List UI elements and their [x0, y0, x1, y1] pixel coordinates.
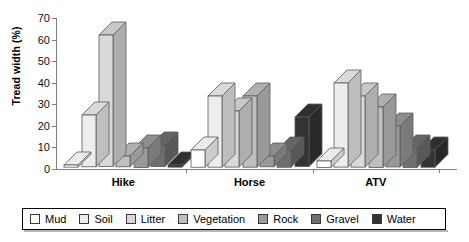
legend-label: Water: [387, 213, 416, 225]
category-label-horse: Horse: [181, 176, 319, 188]
legend-item-rock[interactable]: Rock: [258, 213, 298, 225]
y-tick-mark: [52, 147, 56, 148]
legend-label: Gravel: [326, 213, 358, 225]
y-tick-mark: [52, 83, 56, 84]
bar-horse-mud: [191, 152, 205, 169]
y-axis-line: [56, 18, 57, 170]
legend-swatch-icon: [79, 214, 89, 224]
category-separator-tick: [313, 169, 314, 173]
legend-label: Vegetation: [193, 213, 245, 225]
tread-width-bar-chart: Tread width (%) 706050403020100 HikeHors…: [0, 0, 469, 242]
legend-label: Litter: [141, 213, 165, 225]
legend-item-water[interactable]: Water: [372, 213, 416, 225]
y-tick-label: 60: [38, 34, 50, 46]
legend-item-soil[interactable]: Soil: [79, 213, 112, 225]
legend-swatch-icon: [126, 214, 136, 224]
plot-area: 706050403020100 HikeHorseATV: [56, 18, 456, 169]
category-label-atv: ATV: [307, 176, 445, 188]
legend-swatch-icon: [30, 214, 40, 224]
y-tick-label: 70: [38, 12, 50, 24]
y-tick-label: 20: [38, 120, 50, 132]
y-tick-mark: [52, 104, 56, 105]
y-tick-label: 40: [38, 77, 50, 89]
y-tick-mark: [52, 61, 56, 62]
bar-hike-mud: [64, 167, 78, 169]
legend-swatch-icon: [372, 214, 382, 224]
legend-shadow: [24, 230, 448, 232]
x-axis-line: [56, 169, 457, 170]
bar-3d-shape: [191, 137, 220, 169]
legend-item-gravel[interactable]: Gravel: [311, 213, 358, 225]
legend-swatch-icon: [258, 214, 268, 224]
y-tick-mark: [52, 169, 56, 170]
legend-swatch-icon: [178, 214, 188, 224]
legend-label: Rock: [273, 213, 298, 225]
chart-legend: MudSoilLitterVegetationRockGravelWater: [22, 208, 446, 230]
y-tick-label: 50: [38, 55, 50, 67]
y-axis-title: Tread width (%): [10, 6, 22, 126]
y-tick-label: 10: [38, 141, 50, 153]
legend-label: Soil: [94, 213, 112, 225]
y-tick-label: 30: [38, 98, 50, 110]
category-separator-tick: [186, 169, 187, 173]
legend-item-litter[interactable]: Litter: [126, 213, 165, 225]
y-tick-mark: [52, 126, 56, 127]
bar-3d-shape: [64, 152, 93, 169]
y-tick-mark: [52, 40, 56, 41]
legend-swatch-icon: [311, 214, 321, 224]
category-label-hike: Hike: [54, 176, 192, 188]
category-separator-tick: [439, 169, 440, 173]
legend-label: Mud: [45, 213, 66, 225]
y-tick-mark: [52, 18, 56, 19]
legend-item-mud[interactable]: Mud: [30, 213, 66, 225]
y-tick-label: 0: [44, 163, 50, 175]
bar-atv-mud: [317, 163, 331, 169]
legend-item-vegetation[interactable]: Vegetation: [178, 213, 245, 225]
bar-3d-shape: [317, 148, 346, 169]
